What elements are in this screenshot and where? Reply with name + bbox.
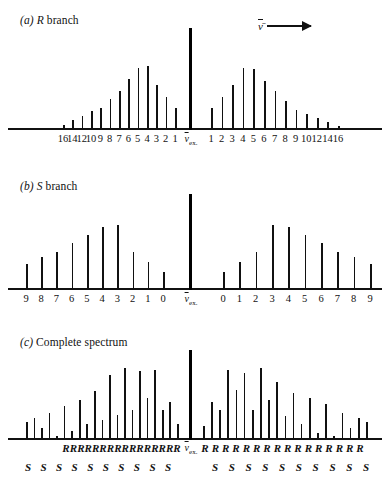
r-branch-line-right-7	[275, 91, 277, 130]
r-branch-letter-right-8: R	[284, 442, 291, 454]
s-branch-line-right-5	[305, 235, 307, 290]
tick-right-9: 9	[293, 133, 298, 144]
r-branch-letter-left-13: R	[159, 442, 166, 454]
spectrum-line-right-17	[342, 413, 344, 440]
r-branch-letter-right-14: R	[346, 442, 353, 454]
tick-left-9: 9	[23, 293, 28, 304]
panel-b-tick-labels: 9876543210νex.0123456789	[8, 293, 382, 309]
tick-right-1: 1	[237, 293, 242, 304]
spectrum-line-left-1	[34, 418, 36, 441]
s-branch-letter-right-4: S	[279, 461, 285, 473]
spectrum-line-right-2	[219, 410, 221, 440]
spectrum-line-left-19	[169, 402, 171, 440]
s-branch-line-right-4	[288, 227, 290, 290]
s-branch-line-left-1	[148, 262, 150, 290]
spectrum-line-right-5	[244, 373, 246, 440]
r-branch-line-right-6	[264, 81, 266, 130]
tick-right-2: 2	[253, 293, 258, 304]
exciting-line-label: νex.	[185, 293, 198, 307]
spectrum-line-right-16	[333, 436, 335, 441]
tick-left-6: 6	[126, 133, 131, 144]
r-branch-letter-right-12: R	[325, 442, 332, 454]
r-branch-line-left-9	[100, 108, 102, 130]
spectrum-line-left-10	[102, 420, 104, 440]
r-branch-line-left-7	[119, 91, 121, 130]
r-branch-letter-right-0: R	[201, 442, 208, 454]
tick-right-1: 1	[208, 133, 213, 144]
spectrum-line-left-5	[64, 406, 66, 440]
spectrum-line-right-1	[211, 402, 213, 440]
panel-c-r-letter-row: νex.RRRRRRRRRRRRRRRRRRRRRRRRRRRRRRRR	[8, 442, 382, 457]
spectrum-line-right-14	[317, 433, 319, 440]
r-branch-line-left-4	[147, 66, 149, 130]
r-branch-line-right-1	[211, 108, 213, 130]
spectrum-line-left-8	[86, 424, 88, 440]
panel-b-plot	[8, 194, 382, 290]
nu-bar-symbol: ν	[185, 133, 189, 144]
r-branch-line-right-10	[306, 114, 308, 130]
s-branch-line-left-7	[56, 252, 58, 290]
spectrum-line-left-11	[109, 375, 111, 440]
s-branch-line-left-5	[87, 235, 89, 290]
s-branch-letter-right-0: S	[212, 461, 218, 473]
r-branch-letter-right-5: R	[253, 442, 260, 454]
r-branch-line-right-9	[296, 110, 298, 130]
spectrum-line-right-20	[366, 422, 368, 440]
tick-right-7: 7	[335, 293, 340, 304]
s-branch-letter-left-7: S	[134, 461, 140, 473]
spectrum-line-right-13	[309, 398, 311, 440]
r-branch-letter-right-7: R	[274, 442, 281, 454]
s-branch-letter-left-0: S	[25, 461, 31, 473]
tick-right-16: 16	[333, 133, 344, 144]
spectrum-line-left-20	[177, 424, 179, 440]
panel-b-label: branch	[46, 180, 78, 192]
tick-right-2: 2	[219, 133, 224, 144]
r-branch-letter-right-6: R	[263, 442, 270, 454]
tick-left-1: 1	[172, 133, 177, 144]
r-branch-letter-left-12: R	[151, 442, 158, 454]
spectrum-line-left-2	[41, 428, 43, 440]
s-branch-line-left-8	[41, 257, 43, 290]
spectrum-line-right-11	[293, 393, 295, 440]
r-branch-line-left-8	[110, 99, 112, 130]
panel-b-axis	[8, 288, 382, 290]
tick-left-8: 8	[39, 293, 44, 304]
r-branch-line-left-1	[175, 108, 177, 130]
tick-right-9: 9	[367, 293, 372, 304]
spectrum-line-left-13	[124, 368, 126, 440]
tick-right-8: 8	[351, 293, 356, 304]
tick-left-3: 3	[115, 293, 120, 304]
spectrum-line-right-6	[252, 410, 254, 440]
s-branch-line-right-2	[256, 252, 258, 290]
r-branch-letter-left-0: R	[62, 442, 69, 454]
spectrum-line-right-8	[268, 400, 270, 441]
r-branch-line-right-5	[253, 69, 255, 130]
r-branch-letter-left-9: R	[129, 442, 136, 454]
s-branch-line-left-9	[26, 264, 28, 290]
spectrum-line-right-19	[358, 418, 360, 441]
tick-left-4: 4	[99, 293, 104, 304]
r-branch-line-left-12	[82, 116, 84, 130]
s-branch-line-right-9	[370, 264, 372, 290]
s-branch-line-left-3	[117, 225, 119, 290]
r-branch-letter-right-2: R	[222, 442, 229, 454]
r-branch-letter-left-15: R	[173, 442, 180, 454]
spectrum-line-left-15	[139, 371, 141, 440]
panel-b-title: (b) S branch	[20, 180, 77, 192]
r-branch-letter-left-2: R	[77, 442, 84, 454]
s-branch-line-right-3	[272, 225, 274, 290]
r-branch-line-right-12	[317, 118, 319, 130]
tick-left-9: 9	[98, 133, 103, 144]
tick-right-3: 3	[269, 293, 274, 304]
r-branch-letter-left-11: R	[144, 442, 151, 454]
s-branch-line-right-0	[223, 272, 225, 290]
exciting-line-label: νex.	[185, 133, 198, 147]
s-branch-line-left-0	[163, 272, 165, 290]
exciting-line	[189, 350, 192, 440]
tick-right-5: 5	[251, 133, 256, 144]
s-branch-letter-right-2: S	[245, 461, 251, 473]
tick-right-5: 5	[302, 293, 307, 304]
tick-left-2: 2	[163, 133, 168, 144]
panel-a-plot	[8, 28, 382, 130]
tick-left-2: 2	[130, 293, 135, 304]
